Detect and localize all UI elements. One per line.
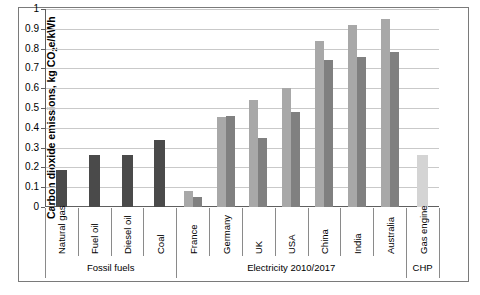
group-divider	[406, 256, 407, 278]
y-axis-tick-label: 0	[33, 202, 39, 212]
category-label: Germany	[220, 215, 231, 254]
category-divider	[143, 208, 144, 256]
category-label: Natural gas	[56, 205, 67, 254]
category-separators	[45, 9, 439, 207]
y-axis-tick-label: 0.1	[25, 182, 39, 192]
category-label-cell: France	[176, 208, 209, 256]
y-axis-tick-label: 0.2	[25, 162, 39, 172]
category-label-cell: China	[308, 208, 341, 256]
row-left-edge	[45, 256, 46, 278]
category-label: UK	[253, 241, 264, 254]
group-label-fossil-fuels: Fossil fuels	[45, 256, 176, 278]
y-axis-tick-label: 0.3	[25, 143, 39, 153]
category-label-cell: Gas engine	[406, 208, 439, 256]
group-divider	[176, 256, 177, 278]
category-label-cell: Australia	[373, 208, 406, 256]
plot-area: 10.90.80.70.60.50.40.30.20.10	[45, 9, 439, 207]
y-axis-tick-label: 0.8	[25, 44, 39, 54]
category-label-cell: Diesel oil	[111, 208, 144, 256]
category-label: China	[319, 229, 330, 254]
category-label-cell: UK	[242, 208, 275, 256]
chart-frame: Carbon dioxide emissions, kg CO2e/kWh 10…	[18, 7, 469, 282]
category-label: Diesel oil	[122, 215, 133, 254]
category-label-row: Natural gasFuel oilDiesel oilCoalFranceG…	[45, 208, 439, 256]
category-label-cell: Natural gas	[45, 208, 78, 256]
category-divider	[242, 208, 243, 256]
category-label: Gas engine	[417, 205, 428, 254]
category-divider	[78, 208, 79, 256]
category-label: USA	[286, 234, 297, 254]
category-divider	[406, 208, 407, 256]
y-axis-tick-label: 0.6	[25, 83, 39, 93]
chart-screenshot: Carbon dioxide emissions, kg CO2e/kWh 10…	[0, 0, 480, 295]
category-divider	[373, 208, 374, 256]
category-label-cell: India	[340, 208, 373, 256]
category-label-cell: USA	[275, 208, 308, 256]
y-axis-tick-label: 1	[33, 4, 39, 14]
category-label-cell: Germany	[209, 208, 242, 256]
category-divider	[209, 208, 210, 256]
y-axis-tick-label: 0.9	[25, 24, 39, 34]
category-divider	[111, 208, 112, 256]
category-divider	[308, 208, 309, 256]
y-axis-tick-label: 0.7	[25, 63, 39, 73]
group-label-row: Fossil fuelsElectricity 2010/2017CHP	[45, 256, 439, 278]
group-label-chp: CHP	[406, 256, 439, 278]
category-label-cell: Fuel oil	[78, 208, 111, 256]
category-label-cell: Coal	[143, 208, 176, 256]
y-axis-tick-label: 0.4	[25, 123, 39, 133]
category-label: Coal	[154, 234, 165, 254]
category-divider	[176, 208, 177, 256]
group-label-electricity-2010-2017: Electricity 2010/2017	[176, 256, 406, 278]
category-label: Australia	[384, 217, 395, 254]
y-axis-tick-label: 0.5	[25, 103, 39, 113]
category-label: India	[351, 233, 362, 254]
row-right-edge	[439, 256, 440, 278]
category-divider	[275, 208, 276, 256]
category-divider	[340, 208, 341, 256]
row-right-edge	[439, 208, 440, 256]
category-label: Fuel oil	[89, 223, 100, 254]
category-label: France	[187, 224, 198, 254]
row-left-edge	[45, 208, 46, 256]
